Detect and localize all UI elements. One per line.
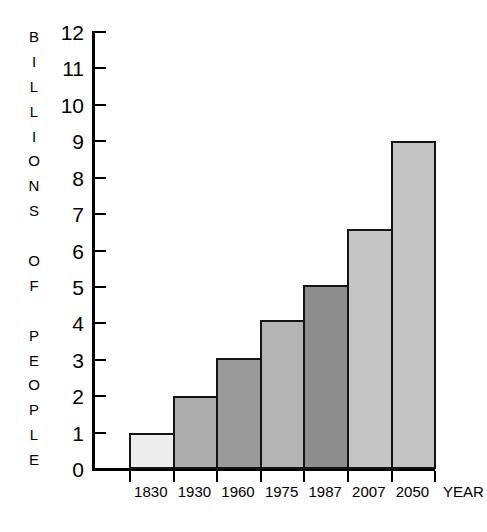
x-axis-tick-label: 1930: [178, 484, 211, 499]
population-bar-chart: B I L L I O N S O F P E O P L E 12111098…: [0, 0, 487, 532]
bar-1987: [303, 285, 349, 469]
bar-1930: [173, 396, 219, 469]
x-axis-tick-label: 1987: [309, 484, 342, 499]
bar-1830: [129, 433, 175, 469]
x-axis-tick-label: 1830: [134, 484, 167, 499]
bars-layer: [0, 0, 487, 532]
x-axis-tick-label: 1975: [265, 484, 298, 499]
x-axis-tick-label: 1960: [221, 484, 254, 499]
bar-1975: [260, 320, 306, 469]
x-axis-tick-label: 2007: [352, 484, 385, 499]
x-axis-title: YEAR: [443, 484, 484, 499]
bar-1960: [216, 358, 262, 469]
x-axis-tick-label: 2050: [396, 484, 429, 499]
bar-2050: [391, 141, 437, 469]
bar-2007: [347, 229, 393, 469]
x-axis-tick-labels: 1830193019601975198720072050: [0, 484, 487, 510]
